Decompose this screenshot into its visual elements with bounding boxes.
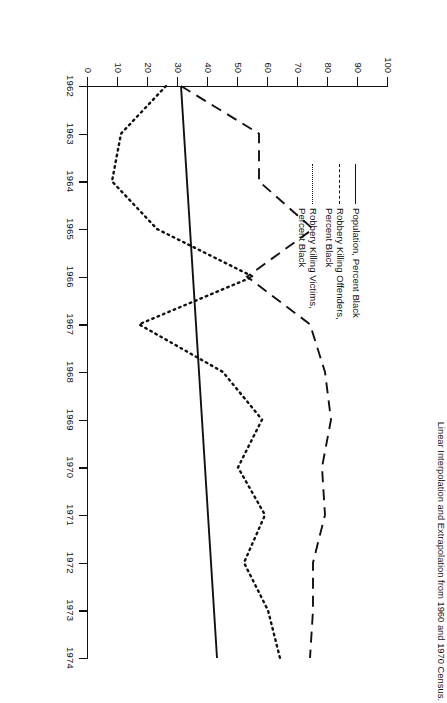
y-tick-90 (357, 77, 358, 86)
series-line-dotted (112, 86, 280, 658)
plot-area: 1962196319641965196619671968196919701971… (38, 28, 400, 676)
y-tick-10 (117, 77, 118, 86)
x-tick-label-1968: 1968 (65, 361, 76, 383)
x-tick-label-1965: 1965 (65, 218, 76, 240)
x-tick-1966 (79, 276, 88, 277)
y-tick-label-70: 70 (293, 62, 304, 73)
y-tick-0 (87, 77, 88, 86)
y-tick-40 (207, 77, 208, 86)
x-tick-label-1967: 1967 (65, 313, 76, 335)
y-tick-label-40: 40 (203, 62, 214, 73)
legend: Population, Percent BlackRobbery Killing… (292, 164, 362, 320)
x-tick-1970 (79, 467, 88, 468)
y-tick-60 (267, 77, 268, 86)
legend-entry-dashed[interactable]: Robbery Killing Offenders,Percent Black (319, 164, 346, 320)
y-tick-label-80: 80 (323, 62, 334, 73)
chart-rotation-container: 1962196319641965196619671968196919701971… (38, 28, 400, 676)
y-tick-label-60: 60 (263, 62, 274, 73)
x-tick-1974 (79, 658, 88, 659)
x-tick-label-1970: 1970 (65, 456, 76, 478)
y-tick-20 (147, 77, 148, 86)
figure-caption: Linear Interpolation and Extrapolation f… (436, 422, 447, 701)
x-tick-label-1971: 1971 (65, 504, 76, 526)
axes: 1962196319641965196619671968196919701971… (88, 86, 388, 658)
y-tick-label-100: 100 (383, 57, 394, 73)
legend-label: Robbery Killing Victims,Percent Black (297, 204, 319, 309)
y-tick-70 (297, 77, 298, 86)
legend-line-sample-dotted-icon (305, 164, 319, 204)
x-tick-label-1964: 1964 (65, 170, 76, 192)
x-tick-1965 (79, 229, 88, 230)
y-tick-label-20: 20 (143, 62, 154, 73)
x-tick-1963 (79, 133, 88, 134)
legend-label: Population, Percent Black (351, 204, 362, 318)
y-tick-label-10: 10 (113, 62, 124, 73)
legend-line-sample-dashed-icon (332, 164, 346, 204)
x-tick-label-1974: 1974 (65, 647, 76, 669)
x-tick-1967 (79, 324, 88, 325)
legend-label: Robbery Killing Offenders,Percent Black (324, 204, 346, 320)
y-tick-label-90: 90 (353, 62, 364, 73)
x-tick-label-1962: 1962 (65, 75, 76, 97)
x-tick-label-1963: 1963 (65, 122, 76, 144)
y-tick-label-30: 30 (173, 62, 184, 73)
x-tick-1969 (79, 419, 88, 420)
x-tick-label-1973: 1973 (65, 599, 76, 621)
x-tick-1971 (79, 515, 88, 516)
x-tick-1972 (79, 562, 88, 563)
y-tick-50 (237, 77, 238, 86)
x-tick-label-1972: 1972 (65, 551, 76, 573)
legend-entry-solid[interactable]: Population, Percent Black (346, 164, 362, 320)
series-line-solid (181, 86, 217, 658)
y-tick-80 (327, 77, 328, 86)
x-tick-1973 (79, 610, 88, 611)
x-tick-1968 (79, 372, 88, 373)
legend-line-sample-solid-icon (348, 164, 362, 204)
y-tick-label-0: 0 (83, 67, 94, 72)
x-tick-label-1969: 1969 (65, 408, 76, 430)
legend-entry-dotted[interactable]: Robbery Killing Victims,Percent Black (292, 164, 319, 320)
y-tick-30 (177, 77, 178, 86)
y-tick-label-50: 50 (233, 62, 244, 73)
x-tick-1964 (79, 181, 88, 182)
x-tick-label-1966: 1966 (65, 265, 76, 287)
y-tick-100 (387, 77, 388, 86)
